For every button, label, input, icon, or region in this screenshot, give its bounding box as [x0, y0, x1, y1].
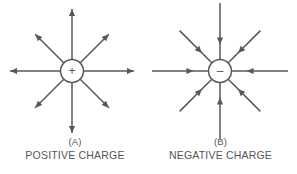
arrowhead-inward [217, 37, 223, 44]
panel-b: – [152, 3, 288, 139]
arrowhead-outward [69, 126, 75, 133]
field-lines-diagram: +– [0, 0, 297, 174]
field-line [228, 79, 260, 111]
arrowhead-outward [127, 68, 134, 74]
arrowhead-outward [10, 68, 17, 74]
arrowhead-inward [247, 68, 254, 74]
field-line [180, 79, 212, 111]
field-lines-figure: +– (A) POSITIVE CHARGE (B) NEGATIVE CHAR… [0, 0, 297, 174]
field-line [228, 31, 260, 63]
arrowhead-inward [217, 98, 223, 105]
arrowhead-outward [69, 9, 75, 16]
charge-symbol: + [68, 64, 75, 78]
charge-symbol: – [217, 64, 224, 78]
field-line [180, 31, 212, 63]
arrowhead-inward [186, 68, 193, 74]
panel-a: + [10, 9, 134, 133]
